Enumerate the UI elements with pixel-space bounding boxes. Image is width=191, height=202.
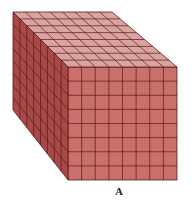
- cube-figure: [0, 0, 191, 202]
- figure-label: A: [115, 185, 123, 197]
